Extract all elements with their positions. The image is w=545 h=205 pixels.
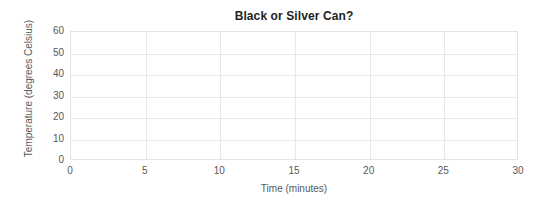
x-tick-label: 10	[199, 165, 239, 177]
y-tick-label: 0	[24, 155, 64, 165]
y-tick-label: 60	[24, 26, 64, 36]
x-tick-label: 30	[498, 165, 538, 177]
x-tick-label: 20	[349, 165, 389, 177]
x-tick-label: 25	[423, 165, 463, 177]
y-tick-label: 10	[24, 134, 64, 144]
x-axis-tick-labels: 0 5 10 15 20 25 30	[70, 165, 518, 179]
y-tick-label: 30	[24, 91, 64, 101]
x-tick-label: 5	[125, 165, 165, 177]
chart-title: Black or Silver Can?	[70, 9, 518, 23]
x-tick-label: 0	[50, 165, 90, 177]
y-tick-label: 20	[24, 112, 64, 122]
y-tick-label: 50	[24, 48, 64, 58]
data-series-layer	[71, 32, 519, 161]
x-axis-title: Time (minutes)	[70, 183, 518, 194]
y-axis-tick-labels: 60 50 40 30 20 10 0	[22, 31, 64, 160]
y-tick-label: 40	[24, 69, 64, 79]
chart-container: Black or Silver Can? Temperature (degree…	[0, 0, 545, 205]
x-tick-label: 15	[274, 165, 314, 177]
plot-area	[70, 31, 518, 160]
